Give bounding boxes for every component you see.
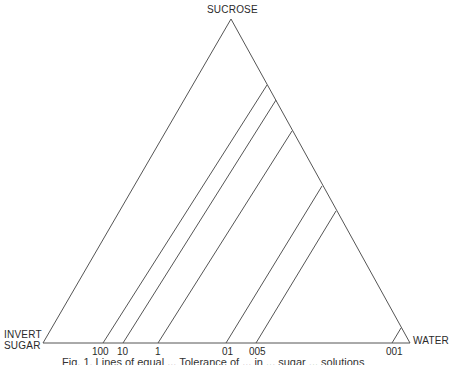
iso-line-0.05 <box>256 211 336 343</box>
triangle-outline <box>43 19 410 343</box>
vertex-label-sucrose: SUCROSE <box>207 4 258 15</box>
vertex-label-sugar: SUGAR <box>4 340 42 351</box>
ternary-plot <box>0 0 450 365</box>
vertex-label-invert: INVERT <box>4 329 42 340</box>
ternary-figure: SUCROSE INVERT SUGAR WATER 100 10 1 01 0… <box>0 0 450 365</box>
vertex-label-water: WATER <box>413 335 449 346</box>
vertex-label-invert-sugar: INVERT SUGAR <box>4 329 42 351</box>
iso-line-100 <box>103 85 267 343</box>
iso-line-10 <box>123 100 276 343</box>
iso-line-0.1 <box>226 186 322 343</box>
iso-line-1 <box>158 131 292 343</box>
figure-caption: Fig. 1. Lines of equal ... Tolerance of … <box>62 355 392 365</box>
iso-line-0.01 <box>392 328 401 343</box>
